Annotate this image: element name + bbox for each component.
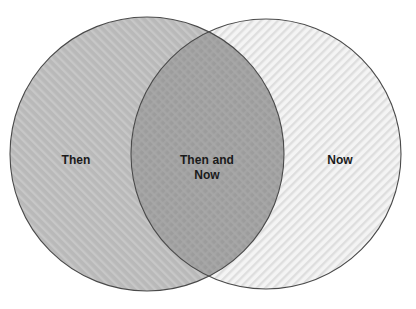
venn-diagram-canvas — [0, 0, 416, 309]
venn-diagram: Then Then and Now Now — [0, 0, 416, 309]
